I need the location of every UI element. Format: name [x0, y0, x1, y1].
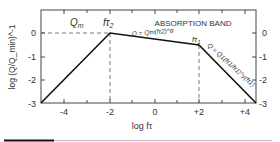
x-tick-labels: -4 -2 0 +2 +4 [60, 107, 250, 117]
formula-right: Q = Q1(fτ1/fτ1)^γ(fτ1) [206, 42, 257, 89]
formula-mid: Q = Qm(fτ2)^α [131, 26, 174, 38]
ft2-label: fτ2 [103, 17, 114, 29]
y-axis-label: log (Q/Q_min)^-1 [7, 24, 17, 89]
ft1-label: fτ1 [192, 35, 201, 45]
qm-label: Qm [70, 17, 84, 29]
absorption-band-line [41, 33, 256, 103]
reference-lines [41, 33, 199, 103]
svg-text:-1: -1 [28, 52, 36, 62]
svg-text:+2: +2 [194, 107, 204, 117]
svg-text:0: 0 [152, 107, 157, 117]
y-tick-labels-left: 0 -1 -2 -3 [28, 28, 36, 109]
x-axis-label: log fτ [132, 121, 153, 131]
svg-text:-4: -4 [60, 107, 68, 117]
svg-text:0: 0 [262, 28, 267, 38]
svg-text:+4: +4 [240, 107, 250, 117]
svg-text:-1: -1 [259, 52, 267, 62]
y-tick-labels-right: 0 -1 -2 -3 [259, 28, 267, 109]
svg-text:-3: -3 [259, 99, 267, 109]
svg-text:-3: -3 [28, 99, 36, 109]
svg-text:-2: -2 [259, 75, 267, 85]
absorption-band-chart: 0 -1 -2 -3 0 -1 -2 -3 -4 -2 0 +2 +4 log … [0, 0, 280, 142]
svg-text:-2: -2 [106, 107, 114, 117]
svg-text:-2: -2 [28, 75, 36, 85]
svg-text:0: 0 [31, 28, 36, 38]
